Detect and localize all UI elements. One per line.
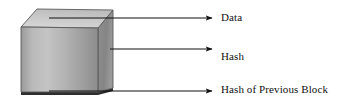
callout-label-hash: Hash [221,50,244,62]
block-diagram-canvas: Data Hash Hash of Previous Block [0,0,346,107]
callout-label-data: Data [221,11,242,23]
callout-label-previous-hash: Hash of Previous Block [221,83,328,95]
cube-front-face [21,27,98,92]
